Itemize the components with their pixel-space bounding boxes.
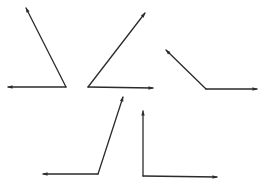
angle-2: Acute angle opening up-right (88, 13, 153, 88)
angle-3-ray-1 (166, 50, 206, 89)
angle-1-ray-1 (26, 8, 66, 87)
angle-5-ray-2 (143, 176, 217, 177)
angles-group: Acute angle opening up-leftAcute angle o… (8, 8, 257, 177)
angles-diagram: Acute angle opening up-leftAcute angle o… (0, 0, 260, 181)
angle-3: Obtuse angle (166, 50, 257, 89)
angle-4: Obtuse angle opening up-right (43, 97, 123, 174)
angle-4-ray-1 (98, 97, 123, 174)
angle-2-ray-1 (88, 13, 145, 87)
angle-1: Acute angle opening up-left (8, 8, 66, 87)
angle-5: Right angle (143, 111, 217, 177)
angle-2-ray-2 (88, 87, 153, 88)
